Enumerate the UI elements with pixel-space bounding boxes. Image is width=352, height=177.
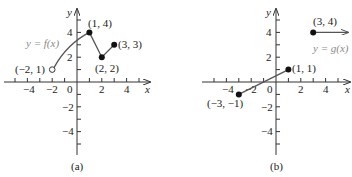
y-tick-label-neg4-a: −4 (62, 125, 74, 137)
y-tick-label-4-a: 4 (67, 26, 73, 38)
y-tick-label-neg2-b: −2 (261, 101, 273, 113)
point-label-1-1: (1, 1) (292, 62, 316, 75)
x-tick-label-0-a: 0 (67, 83, 73, 95)
x-axis-label-a: x (144, 83, 150, 95)
x-tick-label-4-b: 4 (323, 83, 329, 95)
x-tick-label-2-a: 2 (99, 83, 105, 95)
y-axis-label-a: y (66, 6, 72, 18)
y-tick-label-neg4-b: −4 (261, 125, 273, 137)
caption-a: (a) (71, 160, 84, 173)
point-1-4 (86, 29, 92, 35)
x-tick-label-neg4-b: −4 (222, 83, 234, 95)
function-graphs-figure: −4 −2 0 2 4 x 4 2 −2 −4 y (−2, 1) (1, 4)… (0, 0, 352, 177)
caption-b: (b) (270, 160, 283, 173)
point-3-4 (310, 29, 316, 35)
point-label-neg3-neg1: (−3, −1) (207, 97, 244, 110)
x-axis-label-b: x (344, 83, 350, 95)
x-tick-label-2-b: 2 (298, 83, 304, 95)
point-label-2-2: (2, 2) (95, 62, 119, 75)
point-label-neg2-1: (−2, 1) (15, 63, 45, 76)
point-3-3 (111, 42, 117, 48)
y-tick-label-4-b: 4 (266, 26, 272, 38)
graph-a: −4 −2 0 2 4 x 4 2 −2 −4 y (−2, 1) (1, 4)… (4, 6, 150, 173)
x-tick-label-neg2-a: −2 (46, 83, 58, 95)
y-tick-label-2-a: 2 (67, 51, 73, 63)
x-tick-label-0-b: 0 (267, 83, 273, 95)
y-tick-label-2-b: 2 (266, 51, 272, 63)
point-label-3-4: (3, 4) (313, 15, 337, 28)
function-label-f: y = f(x) (25, 37, 59, 50)
graph-b: −4 −2 0 2 4 x 4 2 −2 −4 y (−3, −1) (1, 1… (202, 6, 350, 173)
point-label-1-4: (1, 4) (88, 17, 112, 30)
point-2-2 (99, 54, 105, 60)
open-point-neg2-1 (49, 67, 55, 73)
x-tick-label-4-a: 4 (124, 83, 130, 95)
y-tick-label-neg2-a: −2 (62, 101, 74, 113)
point-label-3-3: (3, 3) (118, 38, 142, 51)
x-tick-label-neg4-a: −4 (23, 83, 35, 95)
f-curve-segment-2 (89, 32, 114, 57)
point-1-1 (285, 67, 291, 73)
function-label-g: y = g(x) (312, 42, 349, 55)
y-axis-label-b: y (265, 6, 271, 18)
